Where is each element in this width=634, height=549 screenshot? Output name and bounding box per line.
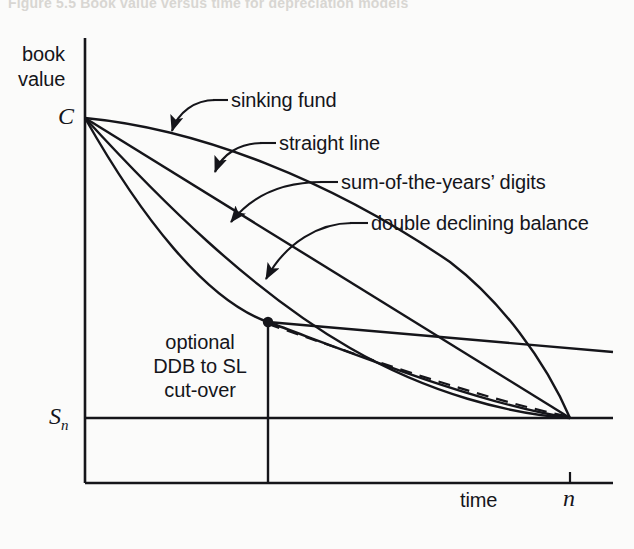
chart-axes — [85, 38, 613, 483]
x-axis-label: time — [460, 488, 497, 512]
y-axis-label-line1: book — [22, 42, 65, 66]
salvage-value-label: Sn — [49, 403, 69, 434]
depreciation-chart — [0, 0, 634, 549]
curve-label-sinking-fund: sinking fund — [231, 88, 337, 113]
leader-sinking-fund — [172, 100, 215, 131]
cutover-annotation-line3: cut-over — [140, 378, 260, 403]
cutover-point-marker — [263, 317, 273, 327]
cutover-annotation-line1: optional — [140, 330, 260, 355]
curve-label-sum-of-years-digits: sum-of-the-years’ digits — [341, 170, 546, 195]
curve-label-double-declining-balance: double declining balance — [371, 211, 589, 236]
curve-label-straight-line: straight line — [279, 131, 380, 156]
leader-double-declining-balance — [266, 223, 352, 279]
end-of-life-label: n — [563, 485, 575, 512]
figure-canvas: Figure 5.5 Book value versus time for de… — [0, 0, 634, 549]
cutover-annotation-line2: DDB to SL — [140, 354, 260, 379]
salvage-value-symbol: S — [49, 403, 61, 429]
salvage-value-subscript: n — [61, 417, 69, 433]
initial-cost-label: C — [58, 103, 74, 130]
y-axis-label-line2: value — [18, 67, 65, 91]
